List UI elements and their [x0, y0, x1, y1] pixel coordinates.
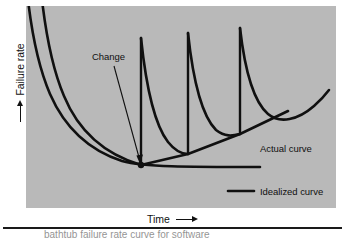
decay-3-path: [240, 28, 329, 120]
y-axis-label-text: Failure rate: [14, 44, 26, 96]
right-arrow-icon: [176, 216, 198, 223]
change-annotation-label: Change: [92, 51, 125, 62]
idealized-curve-label: Idealized curve: [260, 186, 323, 197]
decay-1-path: [141, 38, 188, 154]
horizontal-rule: [3, 227, 342, 229]
failure-rate-figure: Failure rate Change Actual cur: [0, 0, 345, 239]
actual-curve-label: Actual curve: [260, 143, 312, 154]
figure-caption: bathtub failure rate curve for software: [44, 230, 210, 239]
change-marker-dot: [138, 162, 144, 168]
change-leader-line: [114, 66, 140, 161]
x-axis-label: Time: [0, 211, 345, 227]
decay-2-path: [188, 33, 240, 135]
idealized-curve-path: [28, 6, 260, 167]
caption-clip: bathtub failure rate curve for software: [0, 230, 345, 239]
x-axis-label-text: Time: [147, 213, 170, 225]
plot-panel: Change Actual curve Idealized curve: [26, 6, 336, 208]
up-arrow-icon: [17, 100, 24, 122]
plot-curves: [26, 6, 336, 208]
